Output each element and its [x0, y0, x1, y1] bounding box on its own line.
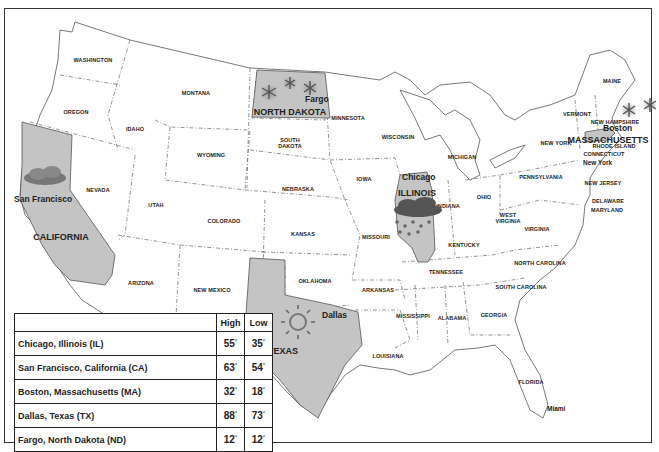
high-cell: 63°: [217, 356, 245, 380]
city-cell: Boston, Massachusetts (MA): [15, 380, 217, 404]
low-cell: 73°: [245, 404, 273, 428]
city-cell: Chicago, Illinois (IL): [15, 332, 217, 356]
snowflake-icon: [643, 98, 657, 112]
table-row: Boston, Massachusetts (MA) 32° 18°: [15, 380, 273, 404]
high-cell: 88°: [217, 404, 245, 428]
table-row: Chicago, Illinois (IL) 55° 35°: [15, 332, 273, 356]
city-cell: Dallas, Texas (TX): [15, 404, 217, 428]
table-row: Fargo, North Dakota (ND) 12° 12°: [15, 428, 273, 452]
high-cell: 32°: [217, 380, 245, 404]
table-row: San Francisco, California (CA) 63° 54°: [15, 356, 273, 380]
low-cell: 54°: [245, 356, 273, 380]
header-low: Low: [245, 314, 273, 332]
snowflake-icon: [302, 80, 318, 96]
city-cell: Fargo, North Dakota (ND): [15, 428, 217, 452]
snowflake-icon: [260, 84, 278, 102]
rain-cloud-icon: [394, 197, 442, 236]
weather-table: High Low Chicago, Illinois (IL) 55° 35° …: [14, 313, 273, 452]
high-cell: 12°: [217, 428, 245, 452]
header-high: High: [217, 314, 245, 332]
table-header-row: High Low: [15, 314, 273, 332]
sun-icon: [281, 305, 315, 339]
cloud-icon: [24, 166, 66, 185]
low-cell: 12°: [245, 428, 273, 452]
city-cell: San Francisco, California (CA): [15, 356, 217, 380]
high-cell: 55°: [217, 332, 245, 356]
header-city: [15, 314, 217, 332]
snowflake-icon: [283, 76, 297, 90]
snowflake-icon: [621, 102, 637, 118]
table-row: Dallas, Texas (TX) 88° 73°: [15, 404, 273, 428]
low-cell: 18°: [245, 380, 273, 404]
low-cell: 35°: [245, 332, 273, 356]
